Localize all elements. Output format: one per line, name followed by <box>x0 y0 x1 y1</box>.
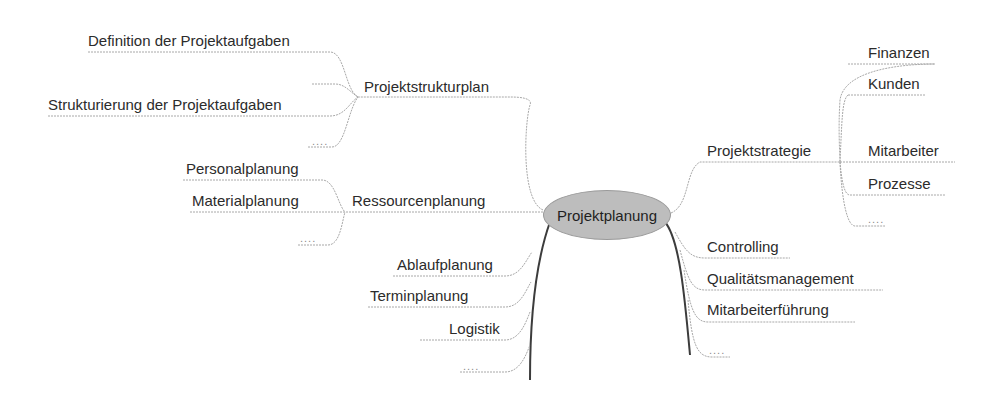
node-projektstrategie[interactable]: Projektstrategie <box>707 142 811 160</box>
node-personalplanung[interactable]: Personalplanung <box>186 160 299 178</box>
node-mitarbeiter[interactable]: Mitarbeiter <box>868 142 939 160</box>
node-qualitaetsmanagement[interactable]: Qualitätsmanagement <box>707 270 854 288</box>
node-strukturierung-projektaufgaben[interactable]: Strukturierung der Projektaufgaben <box>48 96 281 114</box>
node-ressourcenplanung[interactable]: Ressourcenplanung <box>352 192 485 210</box>
node-logistik[interactable]: Logistik <box>449 320 500 338</box>
node-projektstrategie-more[interactable]: .... <box>868 213 884 225</box>
node-ressourcenplanung-more[interactable]: .... <box>300 232 316 244</box>
node-terminplanung[interactable]: Terminplanung <box>370 287 468 305</box>
central-node[interactable]: Projektplanung <box>543 190 671 240</box>
node-projektstrukturplan-more[interactable]: .... <box>312 135 328 147</box>
node-prozesse[interactable]: Prozesse <box>868 175 931 193</box>
node-right-direct-more[interactable]: .... <box>709 344 725 356</box>
node-definition-projektaufgaben[interactable]: Definition der Projektaufgaben <box>88 32 290 50</box>
node-left-direct-more[interactable]: .... <box>463 360 479 372</box>
node-controlling[interactable]: Controlling <box>707 238 779 256</box>
node-ablaufplanung[interactable]: Ablaufplanung <box>397 256 493 274</box>
node-projektstrukturplan[interactable]: Projektstrukturplan <box>364 78 489 96</box>
central-node-label: Projektplanung <box>557 207 657 224</box>
node-finanzen[interactable]: Finanzen <box>868 44 930 62</box>
node-mitarbeiterfuehrung[interactable]: Mitarbeiterführung <box>707 301 829 319</box>
node-kunden[interactable]: Kunden <box>868 75 920 93</box>
node-materialplanung[interactable]: Materialplanung <box>192 192 299 210</box>
